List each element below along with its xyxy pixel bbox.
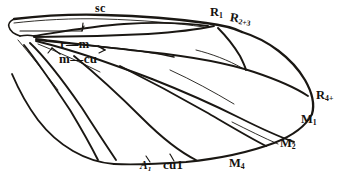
label-media-4: M4 [229, 157, 245, 170]
posterior-margin-basal [12, 74, 114, 164]
subcosta-vein [34, 23, 208, 36]
label-media-1: M1 [301, 113, 317, 126]
label-radius-2-3-subscript: 2+3 [238, 17, 251, 28]
label-crossvein-r-m: r—m [60, 38, 90, 51]
label-media-2-subscript: 2 [292, 142, 296, 151]
wing-base-node [20, 35, 34, 36]
wing-base-articulation [9, 19, 20, 36]
media-2-vein [120, 66, 266, 146]
cell-shade-line-mid [170, 70, 234, 104]
discal-cell-upper-vein [36, 40, 174, 57]
label-radius-4-5: R4+ [316, 89, 333, 102]
label-subcosta: sc [95, 2, 106, 14]
label-anal-1-subscript: 1 [148, 165, 152, 173]
media-1-vein [152, 79, 294, 142]
label-cubitus-1: cu1 [163, 158, 183, 171]
media-4-vein [74, 56, 196, 160]
label-radius-1: R1 [210, 6, 223, 19]
label-radius-1-subscript: 1 [219, 11, 223, 20]
label-media-2: M2 [280, 137, 296, 150]
label-media-4-subscript: 4 [241, 162, 245, 171]
crossvein-r-m-tick [99, 50, 105, 53]
label-radius-4-5-subscript: 4+ [325, 94, 333, 103]
apical-margin-vein [242, 32, 313, 114]
label-crossvein-m-cu: m—cu [59, 52, 97, 65]
label-media-1-subscript: 1 [313, 118, 317, 127]
wing-venation-figure: sc R1 R2+3 r—m m—cu R4+ M1 M2 M4 A1 cu1 [0, 0, 338, 184]
label-anal-1: A1 [140, 160, 151, 173]
